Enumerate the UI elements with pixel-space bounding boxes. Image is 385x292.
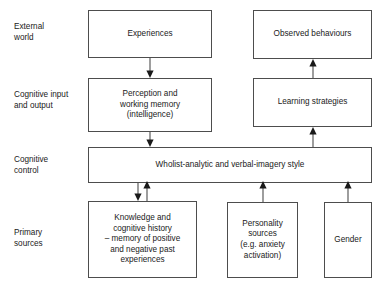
arrow-gender-to-style — [343, 180, 353, 203]
arrow-knowledge-to-style — [142, 180, 152, 202]
row-label-cognitive-control: Cognitive control — [14, 155, 86, 176]
box-gender[interactable]: Gender — [324, 202, 372, 278]
row-label-cognitive-input-and-output: Cognitive input and output — [14, 90, 90, 111]
box-knowledge-and-cognitive-history[interactable]: Knowledge and cognitive history – memory… — [88, 201, 197, 278]
arrow-learning-strategies-to-observed-behaviours — [308, 58, 318, 79]
row-label-external-world: External world — [14, 22, 86, 43]
row-label-primary-sources: Primary sources — [14, 228, 86, 249]
box-perception-and-working-memory[interactable]: Perception and working memory (intellige… — [88, 78, 212, 132]
box-experiences[interactable]: Experiences — [88, 10, 212, 58]
arrow-style-to-learning-strategies — [308, 126, 318, 148]
arrow-perception-to-style — [145, 131, 155, 148]
arrow-personality-to-style — [258, 180, 268, 203]
diagram-canvas: External world Cognitive input and outpu… — [0, 0, 385, 292]
box-observed-behaviours[interactable]: Observed behaviours — [253, 10, 372, 59]
box-learning-strategies[interactable]: Learning strategies — [253, 78, 372, 127]
arrow-experiences-to-perception — [145, 58, 155, 79]
box-wholist-analytic-and-verbal-imagery-style[interactable]: Wholist-analytic and verbal-imagery styl… — [88, 147, 372, 183]
box-personality-sources[interactable]: Personality sources (e.g. anxiety activa… — [227, 202, 298, 278]
